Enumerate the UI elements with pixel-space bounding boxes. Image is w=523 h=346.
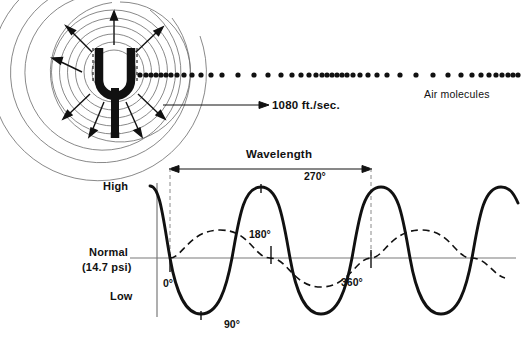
propagation-speed-arrow	[163, 102, 269, 109]
phase-label-90: 90°	[224, 318, 240, 330]
wavelength-label: Wavelength	[246, 148, 312, 160]
wavelength-guide-lines	[170, 168, 371, 258]
figure-canvas	[0, 0, 523, 346]
phase-label-180: 180°	[249, 228, 271, 240]
air-molecules-label: Air molecules	[424, 88, 490, 100]
y-axis-label-low: Low	[110, 290, 133, 302]
phase-label-360: 360°	[341, 276, 363, 288]
speed-label: 1080 ft./sec.	[272, 99, 340, 111]
y-axis-label-normal: Normal	[89, 246, 128, 258]
y-axis-label-high: High	[103, 180, 128, 192]
phase-label-270: 270°	[304, 170, 326, 182]
pressure-wave-solid	[150, 186, 518, 314]
sound-wave-figure: 1080 ft./sec. Air molecules Wavelength H…	[0, 0, 523, 346]
wavelength-measure-arrow	[169, 166, 372, 173]
phase-label-0: 0°	[163, 277, 173, 289]
air-molecules-row	[137, 72, 520, 77]
y-axis-label-normal-value: (14.7 psi)	[82, 261, 132, 273]
